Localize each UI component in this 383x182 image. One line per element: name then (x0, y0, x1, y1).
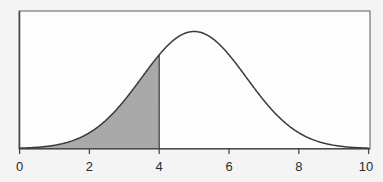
chart-figure: 0 2 4 6 8 10 (0, 0, 383, 182)
x-tick-label-6: 6 (225, 159, 232, 174)
normal-distribution-chart: 0 2 4 6 8 10 (0, 0, 383, 182)
x-tick-label-8: 8 (295, 159, 302, 174)
x-tick-label-0: 0 (16, 159, 23, 174)
x-tick-label-2: 2 (86, 159, 93, 174)
x-tick-label-10: 10 (359, 159, 373, 174)
x-tick-label-4: 4 (156, 159, 163, 174)
